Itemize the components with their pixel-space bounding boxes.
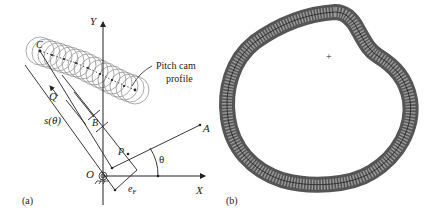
cam-figure: Y X O C Q B P A θ s(θ) eF Pitch cam prof… — [0, 0, 447, 221]
theta-arc — [150, 148, 158, 176]
point-p-label: P — [117, 146, 124, 157]
offset-label: eF — [128, 183, 136, 196]
roller-circles — [26, 37, 149, 104]
panel-b-label: (b) — [226, 195, 238, 207]
callout-line2: profile — [166, 73, 193, 84]
pivot-bearing-icon — [95, 172, 109, 184]
x-axis-label: X — [195, 184, 204, 196]
panel-a: Y X O C Q B P A θ s(θ) eF Pitch cam prof… — [22, 15, 210, 207]
panel-b: + (b) — [226, 12, 411, 207]
panel-a-label: (a) — [22, 195, 33, 207]
point-a-label: A — [202, 122, 210, 134]
cam-center-mark: + — [326, 51, 332, 62]
point-b-label: B — [92, 117, 98, 128]
callout-line1: Pitch cam — [156, 60, 196, 71]
point-q-label: Q — [49, 90, 57, 102]
origin-label: O — [86, 168, 94, 180]
displacement-label: s(θ) — [44, 114, 61, 127]
point-c-label: C — [36, 39, 43, 50]
y-axis-label: Y — [90, 15, 98, 27]
angle-label: θ — [159, 153, 164, 165]
